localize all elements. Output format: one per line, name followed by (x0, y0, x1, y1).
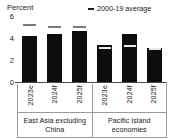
bar-groups (17, 17, 167, 83)
x-tick-group-pacific-islands: 2023e 2024f 2025f (92, 84, 167, 112)
y-axis-label: Percent (7, 3, 34, 12)
y-tick-2: 2 (10, 57, 14, 65)
y-tick-4: 4 (10, 35, 14, 43)
bar-pacific-2023e (97, 45, 112, 83)
y-tick-6: 6 (10, 13, 14, 21)
average-marker-east-asia-2025f (73, 26, 86, 28)
bar-slot (147, 17, 162, 83)
bar-chart: Percent 2000-19 average 0 2 4 6 (0, 0, 171, 139)
x-axis-line (15, 82, 167, 83)
group-name-band: East Asia excluding China Pacific Island… (17, 112, 167, 138)
legend-label-average: 2000-19 average (97, 4, 151, 13)
x-tick-pacific-2023e: 2023e (101, 85, 108, 105)
x-tick-east-asia-2024f: 2024f (51, 85, 58, 104)
x-tick-east-asia-2025f: 2025f (76, 85, 83, 104)
x-tick-group-east-asia: 2023e 2024f 2025f (18, 84, 92, 112)
legend-dash-icon (88, 8, 94, 10)
average-marker-east-asia-2023e (23, 24, 36, 26)
average-marker-pacific-2025f (149, 48, 161, 50)
bar-slot (72, 17, 87, 83)
x-tick-pacific-2025f: 2025f (150, 85, 157, 104)
bar-pacific-2024f (122, 34, 137, 84)
bar-slot (122, 17, 137, 83)
x-tick-east-asia-2023e: 2023e (27, 85, 34, 105)
bar-group-east-asia (17, 17, 92, 83)
average-marker-east-asia-2024f (48, 26, 61, 28)
bar-pacific-2025f (147, 48, 162, 83)
x-tick-label-band: 2023e 2024f 2025f 2023e 2024f 2025f (17, 84, 167, 113)
bar-slot (97, 17, 112, 83)
plot-area: 0 2 4 6 (17, 17, 167, 83)
bar-group-pacific-islands (92, 17, 167, 83)
bar-slot (47, 17, 62, 83)
average-marker-pacific-2023e (99, 47, 111, 49)
x-tick-pacific-2024f: 2024f (126, 85, 133, 104)
bar-east-asia-2023e (22, 36, 37, 83)
y-tick-0: 0 (10, 79, 14, 87)
bar-east-asia-2024f (47, 34, 62, 84)
bar-slot (22, 17, 37, 83)
average-marker-pacific-2024f (124, 45, 136, 47)
chart-legend: 2000-19 average (88, 4, 151, 13)
group-label-pacific-islands: Pacific Island economies (92, 112, 167, 137)
group-label-east-asia: East Asia excluding China (18, 112, 92, 137)
bar-east-asia-2025f (72, 31, 87, 83)
